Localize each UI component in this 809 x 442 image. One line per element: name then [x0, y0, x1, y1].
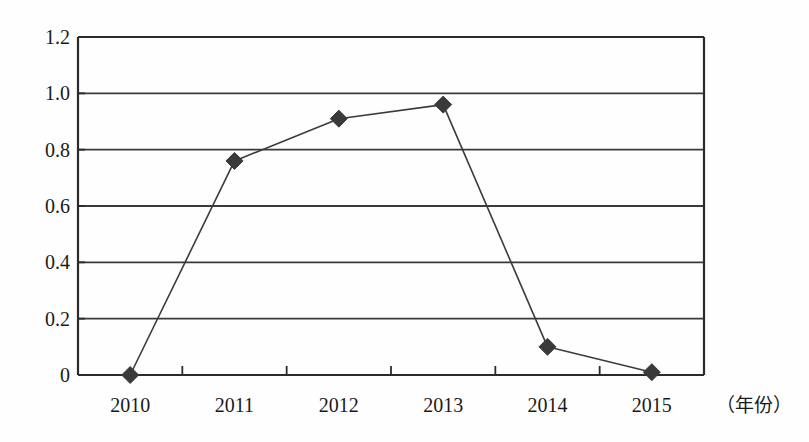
y-axis-tick-label: 1.2	[45, 26, 70, 48]
line-chart: 00.20.40.60.81.01.2 20102011201220132014…	[0, 0, 809, 442]
x-axis-tick-label: 2010	[110, 394, 150, 416]
y-axis-tick-label: 0.8	[45, 139, 70, 161]
y-axis-tick-label: 0.2	[45, 308, 70, 330]
y-axis-tick-label: 0.4	[45, 251, 70, 273]
x-axis-tick-label: 2013	[423, 394, 463, 416]
y-axis-tick-label: 1.0	[45, 82, 70, 104]
x-axis-caption: （年份）	[716, 395, 792, 416]
chart-canvas: 00.20.40.60.81.01.2 20102011201220132014…	[0, 0, 809, 442]
x-axis-tick-label: 2011	[215, 394, 254, 416]
x-axis-tick-label: 2015	[632, 394, 672, 416]
y-axis-tick-label: 0.6	[45, 195, 70, 217]
x-axis-tick-label: 2012	[319, 394, 359, 416]
x-axis-tick-label: 2014	[528, 394, 568, 416]
y-axis-tick-label: 0	[60, 364, 70, 386]
